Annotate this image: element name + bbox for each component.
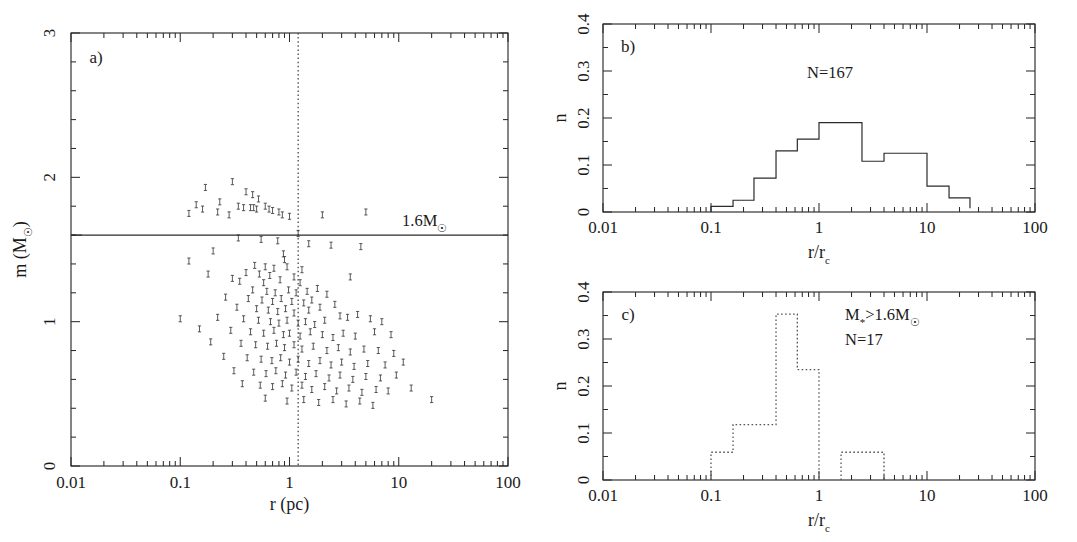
panel-b-yticklabel: 0.1: [574, 154, 593, 175]
panel-b-xticklabel: 100: [1022, 218, 1048, 237]
panel-c-count-annotation: N=17: [845, 330, 883, 349]
panel-c-yticklabel: 0.3: [574, 328, 593, 349]
panel-c-xaxis-title: r/rc: [808, 510, 830, 534]
panel-c-xticklabel: 0.1: [700, 486, 721, 505]
panel-a-yticklabel: 1: [40, 317, 59, 326]
panel-b-frame: [603, 24, 1035, 212]
panel-b-yaxis-title: n: [550, 114, 570, 123]
panel-a-yticklabel: 3: [40, 29, 59, 38]
panel-a-xticklabel: 10: [390, 473, 407, 492]
panel-a-xticklabel: 1: [285, 473, 294, 492]
panel-b-count-annotation: N=167: [807, 63, 853, 82]
panel-b-xticklabel: 0.1: [700, 218, 721, 237]
panel-c-xticklabel: 10: [919, 486, 936, 505]
panel-b-xticklabel: 10: [919, 218, 936, 237]
panel-c-xticklabel: 0.01: [588, 486, 618, 505]
panel-b-histogram: [711, 123, 970, 212]
panel-b-label: b): [621, 37, 635, 56]
panel-c-yticklabel: 0.4: [574, 281, 593, 303]
figure-container: 0.010.11101000123a)1.6M☉r (pc)m (M☉)0.01…: [0, 0, 1077, 542]
panel-c-frame: [603, 292, 1035, 480]
panel-a-cut-label: 1.6M☉: [402, 211, 447, 234]
panel-c-yticklabel: 0.2: [574, 375, 593, 396]
panel-c-xticklabel: 100: [1022, 486, 1048, 505]
panel-a-xaxis-title: r (pc): [270, 494, 309, 515]
panel-b-yticklabel: 0.2: [574, 107, 593, 128]
panel-c-yticklabel: 0.1: [574, 422, 593, 443]
panel-c-xticklabel: 1: [815, 486, 824, 505]
panel-a-yticklabel: 2: [40, 173, 59, 182]
three-panel-figure: 0.010.11101000123a)1.6M☉r (pc)m (M☉)0.01…: [0, 0, 1077, 542]
panel-c-label: c): [621, 305, 634, 324]
panel-a-yaxis-title: m (M☉): [10, 221, 34, 278]
panel-c-yticklabel: 0: [574, 476, 593, 485]
panel-b-xaxis-title: r/rc: [808, 242, 830, 266]
panel-a-scatter: [179, 179, 434, 409]
panel-a-xticklabel: 0.01: [56, 473, 86, 492]
panel-a-label: a): [89, 48, 102, 67]
panel-b-yticklabel: 0.3: [574, 60, 593, 81]
panel-b-xticklabel: 0.01: [588, 218, 618, 237]
panel-c-yaxis-title: n: [550, 382, 570, 391]
panel-a-xticklabel: 0.1: [170, 473, 191, 492]
panel-a-frame: [71, 33, 508, 466]
panel-b-yticklabel: 0.4: [574, 13, 593, 35]
panel-a-xticklabel: 100: [495, 473, 521, 492]
panel-b-xticklabel: 1: [815, 218, 824, 237]
panel-a-yticklabel: 0: [40, 462, 59, 471]
panel-c-mass-annotation: M*>1.6M☉: [845, 305, 920, 328]
panel-b-yticklabel: 0: [574, 208, 593, 217]
